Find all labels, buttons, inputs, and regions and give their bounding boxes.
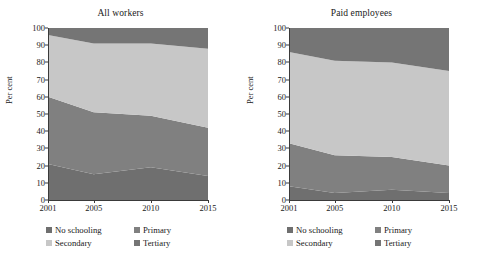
- legend-item-tertiary[interactable]: Tertiary: [375, 237, 437, 250]
- legend-item-secondary[interactable]: Secondary: [287, 237, 365, 250]
- y-axis-label: Per cent: [245, 90, 255, 104]
- y-tick-label: 90: [37, 41, 46, 50]
- x-tick-mark: [335, 200, 336, 203]
- x-tick-label: 2010: [383, 204, 400, 213]
- plot-area: 0102030405060708090100 2001200520102015: [289, 28, 449, 200]
- x-axis-line: [289, 200, 449, 201]
- series-areas: [289, 28, 449, 200]
- x-tick-label: 2001: [40, 204, 57, 213]
- y-axis-label: Per cent: [4, 90, 14, 104]
- y-tick-label: 50: [37, 110, 46, 119]
- y-tick-mark: [45, 148, 48, 149]
- y-tick-label: 100: [273, 24, 286, 33]
- y-tick-mark: [286, 45, 289, 46]
- legend-swatch-icon: [375, 240, 381, 246]
- y-tick-mark: [45, 96, 48, 97]
- x-tick-label: 2001: [281, 204, 298, 213]
- legend-swatch-icon: [134, 227, 140, 233]
- legend-item-primary[interactable]: Primary: [134, 224, 196, 237]
- y-tick-mark: [286, 62, 289, 63]
- x-tick-label: 2005: [85, 204, 102, 213]
- legend-label: No schooling: [55, 224, 102, 237]
- x-tick-mark: [94, 200, 95, 203]
- y-tick-label: 30: [37, 144, 46, 153]
- x-tick-label: 2010: [142, 204, 159, 213]
- legend-row: Secondary Tertiary: [0, 237, 241, 250]
- y-axis-line: [289, 28, 290, 200]
- y-tick-label: 50: [278, 110, 287, 119]
- y-tick-mark: [45, 62, 48, 63]
- series-areas: [48, 28, 208, 200]
- y-tick-label: 80: [37, 58, 46, 67]
- legend-swatch-icon: [287, 227, 293, 233]
- y-tick-mark: [286, 79, 289, 80]
- legend: No schooling Primary Secondary Tertiary: [241, 224, 482, 249]
- x-axis-line: [48, 200, 208, 201]
- y-tick-mark: [286, 165, 289, 166]
- legend-item-no-schooling[interactable]: No schooling: [46, 224, 124, 237]
- x-tick-label: 2015: [441, 204, 458, 213]
- plot-area: 0102030405060708090100 2001200520102015: [48, 28, 208, 200]
- y-tick-mark: [45, 165, 48, 166]
- y-tick-mark: [286, 148, 289, 149]
- y-tick-label: 10: [278, 179, 287, 188]
- area-series: [289, 52, 449, 166]
- panel-all-workers: All workers Per cent 0102030405060708090…: [0, 0, 241, 271]
- y-tick-label: 90: [278, 41, 287, 50]
- legend-label: Tertiary: [384, 237, 411, 250]
- y-tick-label: 60: [37, 93, 46, 102]
- legend-row: Secondary Tertiary: [241, 237, 482, 250]
- y-tick-mark: [45, 45, 48, 46]
- y-tick-mark: [286, 28, 289, 29]
- area-bands: [289, 28, 449, 200]
- panel-title: Paid employees: [241, 8, 482, 18]
- y-tick-label: 40: [278, 127, 287, 136]
- y-tick-label: 60: [278, 93, 287, 102]
- y-tick-label: 20: [37, 161, 46, 170]
- legend-label: Secondary: [55, 237, 92, 250]
- legend-label: Primary: [143, 224, 171, 237]
- legend-label: No schooling: [296, 224, 343, 237]
- x-tick-mark: [208, 200, 209, 203]
- legend-item-no-schooling[interactable]: No schooling: [287, 224, 365, 237]
- legend-label: Primary: [384, 224, 412, 237]
- y-tick-mark: [286, 114, 289, 115]
- legend-swatch-icon: [375, 227, 381, 233]
- area-chart-svg: [48, 28, 208, 200]
- panel-title: All workers: [0, 8, 241, 18]
- x-tick-mark: [48, 200, 49, 203]
- legend-item-tertiary[interactable]: Tertiary: [134, 237, 196, 250]
- y-tick-label: 20: [278, 161, 287, 170]
- x-tick-mark: [289, 200, 290, 203]
- legend-item-secondary[interactable]: Secondary: [46, 237, 124, 250]
- y-tick-mark: [45, 114, 48, 115]
- area-bands: [48, 28, 208, 200]
- legend-label: Secondary: [296, 237, 333, 250]
- x-tick-label: 2015: [200, 204, 217, 213]
- y-tick-label: 40: [37, 127, 46, 136]
- legend-swatch-icon: [134, 240, 140, 246]
- y-tick-mark: [286, 131, 289, 132]
- y-tick-mark: [45, 28, 48, 29]
- legend-label: Tertiary: [143, 237, 170, 250]
- legend-row: No schooling Primary: [0, 224, 241, 237]
- x-tick-mark: [449, 200, 450, 203]
- stacked-area-figure: All workers Per cent 0102030405060708090…: [0, 0, 482, 271]
- y-tick-label: 30: [278, 144, 287, 153]
- panel-paid-employees: Paid employees Per cent 0102030405060708…: [241, 0, 482, 271]
- legend-item-primary[interactable]: Primary: [375, 224, 437, 237]
- y-tick-mark: [45, 182, 48, 183]
- y-tick-mark: [45, 131, 48, 132]
- y-tick-label: 70: [278, 75, 287, 84]
- y-tick-label: 100: [32, 24, 45, 33]
- x-tick-mark: [392, 200, 393, 203]
- legend-swatch-icon: [46, 227, 52, 233]
- area-chart-svg: [289, 28, 449, 200]
- legend-swatch-icon: [287, 240, 293, 246]
- y-tick-label: 70: [37, 75, 46, 84]
- x-tick-mark: [151, 200, 152, 203]
- x-tick-label: 2005: [326, 204, 343, 213]
- y-axis-line: [48, 28, 49, 200]
- y-tick-label: 10: [37, 179, 46, 188]
- legend: No schooling Primary Secondary Tertiary: [0, 224, 241, 249]
